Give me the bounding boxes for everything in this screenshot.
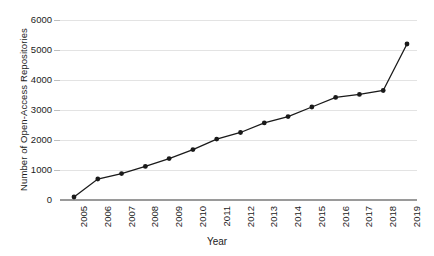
plot-area: 0100020003000400050006000 (60, 20, 417, 200)
x-tick-label: 2012 (245, 206, 256, 227)
data-point (357, 92, 362, 97)
x-tick-label: 2008 (149, 206, 160, 227)
data-point (119, 171, 124, 176)
data-point (214, 137, 219, 142)
x-tick-label: 2007 (126, 206, 137, 227)
x-tick-label: 2013 (268, 206, 279, 227)
y-tick-label: 2000 (0, 135, 52, 145)
line-chart: Number of Open-Access Repositories 01000… (0, 0, 434, 256)
x-tick-label: 2015 (316, 206, 327, 227)
data-point (309, 105, 314, 110)
x-tick-label: 2006 (102, 206, 113, 227)
x-tick-label: 2010 (197, 206, 208, 227)
x-tick-label: 2009 (173, 206, 184, 227)
y-tick-label: 0 (0, 195, 52, 205)
data-point (262, 121, 267, 126)
y-tick-label: 4000 (0, 75, 52, 85)
y-tick-label: 6000 (0, 15, 52, 25)
data-point (143, 164, 148, 169)
x-tick-label: 2011 (221, 206, 232, 226)
series-line (74, 44, 407, 197)
x-tick-label: 2014 (292, 206, 303, 227)
data-point (333, 95, 338, 100)
y-tick-label: 3000 (0, 105, 52, 115)
x-tick-label: 2019 (411, 206, 422, 227)
x-tick-label: 2005 (78, 206, 89, 227)
data-point (167, 156, 172, 161)
y-tick-label: 1000 (0, 165, 52, 175)
x-tick-label: 2016 (340, 206, 351, 227)
data-point (405, 42, 410, 47)
data-series (60, 20, 417, 200)
x-tick-label: 2017 (363, 206, 374, 227)
y-tick-label: 5000 (0, 45, 52, 55)
data-point (381, 88, 386, 93)
data-point (72, 195, 77, 200)
x-tick-label: 2018 (387, 206, 398, 227)
data-point (238, 130, 243, 135)
data-point (191, 147, 196, 152)
data-point (286, 114, 291, 119)
data-point (95, 177, 100, 182)
x-axis-title: Year (0, 236, 434, 247)
